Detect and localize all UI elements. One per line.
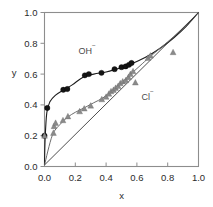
data-point-cl [170,49,176,55]
scatter-plot: 0.00.20.40.60.81.0 0.00.20.40.60.81.0 OH… [0,0,213,207]
y-tick-label: 0.8 [24,38,37,49]
data-point-oh [112,66,117,71]
x-tick-label: 1.0 [192,172,205,183]
data-point-oh [45,105,50,110]
x-axis-tick-labels: 0.00.20.40.60.81.0 [38,172,205,183]
x-axis-ticks [45,163,199,167]
x-tick-label: 0.4 [99,172,112,183]
annotation-cl: Cl− [142,88,155,103]
data-point-cl [53,120,59,126]
data-point-oh [99,70,104,75]
data-point-cl [130,68,136,74]
x-tick-label: 0.0 [38,172,51,183]
y-axis-tick-labels: 0.00.20.40.60.81.0 [24,7,37,172]
y-axis-title: y [12,67,17,78]
y-axis-ticks [41,13,45,167]
chart-container: 0.00.20.40.60.81.0 0.00.20.40.60.81.0 OH… [0,0,213,207]
x-tick-label: 0.6 [130,172,143,183]
y-tick-label: 1.0 [24,7,37,18]
data-point-cl [65,113,71,119]
y-tick-label: 0.4 [24,99,37,110]
x-axis-title: x [119,190,124,201]
y-tick-label: 0.2 [24,130,37,141]
data-point-cl [50,130,56,136]
data-point-oh [129,60,134,65]
data-point-oh [86,71,91,76]
annotation-oh: OH− [78,42,96,57]
data-point-cl [132,79,138,85]
x-tick-label: 0.2 [69,172,82,183]
y-tick-label: 0.0 [24,161,37,172]
y-tick-label: 0.6 [24,69,37,80]
data-point-oh [65,86,70,91]
x-tick-label: 0.8 [161,172,174,183]
series-markers [42,49,176,138]
